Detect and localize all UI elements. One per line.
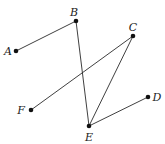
label-d: D	[152, 91, 162, 104]
edge-a-b	[16, 21, 76, 51]
node-b	[74, 19, 79, 24]
edge-c-f	[31, 36, 133, 110]
graph-diagram: A B C D E F	[0, 0, 165, 144]
label-e: E	[84, 131, 93, 144]
edge-e-d	[89, 97, 148, 126]
label-b: B	[69, 6, 78, 19]
node-d	[146, 95, 151, 100]
label-f: F	[16, 104, 25, 117]
label-c: C	[129, 21, 138, 34]
node-c	[131, 34, 136, 39]
label-a: A	[3, 45, 12, 58]
node-a	[14, 49, 19, 54]
node-f	[29, 108, 34, 113]
node-e	[87, 124, 92, 129]
edge-b-e	[76, 21, 89, 126]
edge-c-e	[89, 36, 133, 126]
edges	[16, 21, 148, 126]
